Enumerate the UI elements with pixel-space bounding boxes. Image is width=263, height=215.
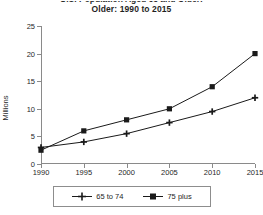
chart-legend: 65 to 74 75 plus <box>53 186 211 207</box>
series-65-to-74 <box>38 95 258 151</box>
series-75-plus <box>38 51 257 153</box>
legend-label-65-to-74: 65 to 74 <box>96 193 123 201</box>
square-marker-icon <box>143 192 163 201</box>
x-tick-label: 2000 <box>118 169 135 177</box>
data-point-square <box>210 84 215 89</box>
x-tick-label: 2005 <box>161 169 178 177</box>
y-tick-label: 0 <box>31 161 35 169</box>
series-line <box>41 54 255 151</box>
chart-title: U.S. Population Aged 65 and Older: Older… <box>0 0 263 14</box>
data-point-square <box>38 148 43 153</box>
chart-title-line-2: Older: 1990 to 2015 <box>0 4 263 14</box>
legend-label-75-plus: 75 plus <box>167 193 191 201</box>
chart-title-line-1: U.S. Population Aged 65 and Older: <box>0 0 263 4</box>
y-tick-label: 20 <box>27 50 35 58</box>
plot-area: 0510152025 199019952000200520102015 <box>41 26 255 164</box>
y-tick-label: 15 <box>27 78 35 86</box>
x-tick-label: 1990 <box>33 169 50 177</box>
x-tick-label: 2015 <box>247 169 263 177</box>
x-tick-label: 1995 <box>75 169 92 177</box>
legend-item-75-plus[interactable]: 75 plus <box>143 192 191 201</box>
data-point-square <box>252 51 257 56</box>
data-point-square <box>167 106 172 111</box>
y-axis-label: Millions <box>2 95 10 120</box>
series-layer <box>41 26 255 164</box>
y-tick-label: 5 <box>31 133 35 141</box>
data-point-square <box>81 128 86 133</box>
y-tick-label: 25 <box>27 23 35 31</box>
y-tick-label: 10 <box>27 105 35 113</box>
series-line <box>41 98 255 148</box>
plus-marker-icon <box>72 192 92 201</box>
x-tick-label: 2010 <box>204 169 221 177</box>
line-chart: U.S. Population Aged 65 and Older: Older… <box>0 0 263 215</box>
legend-item-65-to-74[interactable]: 65 to 74 <box>72 192 123 201</box>
data-point-square <box>124 117 129 122</box>
